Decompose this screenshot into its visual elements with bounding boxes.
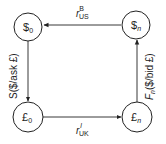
node-gbp-0: £0 xyxy=(13,102,43,132)
node-gbp-n: £n xyxy=(122,102,152,132)
edge-right-label: Fn($/bid £) xyxy=(144,53,156,100)
edge-bottom-label: rlUK xyxy=(76,122,89,137)
edge-top-label: rBUS xyxy=(76,5,89,20)
edge-left-label: S($/ask £) xyxy=(8,53,19,99)
node-usd-0: $0 xyxy=(14,13,42,41)
currency-cycle-diagram: $0 $n £0 £n rBUS rlUK S($/ask £) Fn($/bi… xyxy=(0,0,166,144)
node-usd-n: $n xyxy=(122,11,150,39)
